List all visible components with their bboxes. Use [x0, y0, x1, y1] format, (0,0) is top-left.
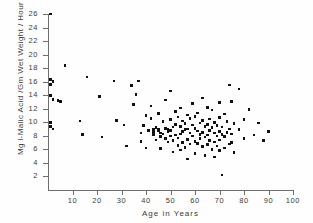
data-point [191, 124, 194, 127]
y-tick-label-14: 14 [22, 91, 38, 99]
data-point [218, 116, 221, 119]
y-tick-4 [43, 163, 48, 164]
data-point [177, 137, 180, 140]
data-point [216, 135, 219, 138]
data-point [164, 137, 167, 140]
data-point [218, 139, 221, 142]
data-point [140, 140, 143, 143]
data-point [162, 133, 165, 136]
data-point [101, 136, 104, 139]
x-tick-80 [244, 190, 245, 195]
x-tick-70 [220, 190, 221, 195]
y-axis-line [48, 14, 49, 190]
data-point [157, 112, 160, 115]
y-tick-label-20: 20 [22, 51, 38, 59]
data-point [147, 129, 150, 132]
data-point [243, 137, 246, 140]
data-point [216, 124, 219, 127]
x-tick-label-10: 10 [60, 197, 86, 205]
data-point [228, 84, 231, 87]
data-point [177, 116, 180, 119]
data-point [233, 122, 236, 125]
x-tick-label-100: 100 [280, 197, 306, 205]
data-point [206, 123, 209, 126]
y-tick-label-8: 8 [22, 132, 38, 140]
data-point [213, 156, 216, 159]
y-tick-label-4: 4 [22, 159, 38, 167]
data-point [196, 130, 199, 133]
data-point [79, 120, 82, 123]
data-point [164, 99, 167, 102]
data-point [135, 93, 138, 96]
data-point [206, 143, 209, 146]
x-tick-10 [73, 190, 74, 195]
data-point [49, 121, 52, 124]
data-point [201, 119, 204, 122]
data-point [52, 98, 55, 101]
data-point [152, 133, 155, 136]
data-point [98, 95, 101, 98]
data-point [81, 133, 84, 136]
data-point [211, 148, 214, 151]
data-point [49, 94, 52, 97]
x-tick-20 [97, 190, 98, 195]
data-point [155, 139, 158, 142]
data-point [253, 134, 256, 137]
data-point [201, 97, 204, 100]
data-point [169, 129, 172, 132]
data-point [174, 110, 177, 113]
x-tick-label-40: 40 [133, 197, 159, 205]
data-point [194, 152, 197, 155]
y-tick-label-22: 22 [22, 37, 38, 45]
x-tick-label-80: 80 [231, 197, 257, 205]
data-point [169, 90, 172, 93]
y-tick-18 [43, 68, 48, 69]
y-tick-label-16: 16 [22, 78, 38, 86]
data-point [208, 139, 211, 142]
y-tick-label-26: 26 [22, 10, 38, 18]
data-point [172, 126, 175, 129]
data-point [233, 151, 236, 154]
x-tick-label-70: 70 [207, 197, 233, 205]
data-point [145, 114, 148, 117]
data-point [213, 141, 216, 144]
data-point [221, 126, 224, 129]
data-point [223, 113, 226, 116]
data-point [115, 119, 118, 122]
y-tick-2 [43, 176, 48, 177]
scatter-plot-figure: Mg l-Malic Acid /Gm Wet Weight / Hour Ag… [0, 0, 313, 223]
data-point [177, 144, 180, 147]
data-point [211, 109, 214, 112]
data-point [196, 112, 199, 115]
data-point [186, 128, 189, 131]
data-point [223, 147, 226, 150]
y-tick-20 [43, 55, 48, 56]
data-point [191, 135, 194, 138]
data-point [145, 147, 148, 150]
data-point [230, 100, 233, 103]
data-point [186, 138, 189, 141]
data-point [159, 147, 162, 150]
data-point [142, 124, 145, 127]
data-point [238, 128, 241, 131]
x-tick-100 [293, 190, 294, 195]
x-axis-title: Age in Years [48, 209, 293, 218]
data-point [49, 13, 52, 16]
data-point [86, 76, 89, 79]
x-tick-60 [195, 190, 196, 195]
data-point [52, 128, 55, 131]
data-point [216, 145, 219, 148]
data-point [125, 145, 128, 148]
data-point [196, 142, 199, 145]
data-point [174, 123, 177, 126]
data-point [186, 158, 189, 161]
data-point [194, 115, 197, 118]
data-point [248, 108, 251, 111]
y-tick-10 [43, 122, 48, 123]
y-tick-label-2: 2 [22, 172, 38, 180]
y-tick-14 [43, 95, 48, 96]
x-tick-label-90: 90 [256, 197, 282, 205]
x-tick-50 [171, 190, 172, 195]
data-point [208, 118, 211, 121]
x-tick-label-20: 20 [84, 197, 110, 205]
